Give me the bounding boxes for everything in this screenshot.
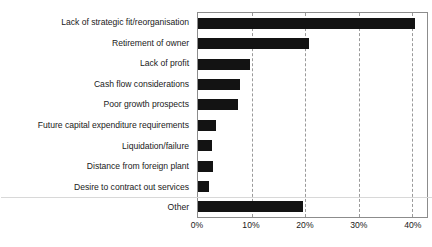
category-label-axis: Lack of strategic fit/reorganisation Ret… [0,12,193,218]
category-label: Lack of strategic fit/reorganisation [0,12,193,33]
bar-row[interactable] [198,54,427,74]
bar[interactable] [198,59,250,70]
category-label: Future capital expenditure requirements [0,115,193,136]
plot-area [197,12,428,218]
bar-row[interactable] [198,135,427,155]
bar[interactable] [198,161,213,172]
bar[interactable] [198,99,238,110]
category-label: Desire to contract out services [0,177,193,198]
bar[interactable] [198,79,240,90]
x-tick-label: 20% [296,221,313,230]
category-label: Cash flow considerations [0,74,193,95]
x-axis: 0%10%20%30%40% [197,221,428,237]
bar[interactable] [198,120,216,131]
bar-row[interactable] [198,74,427,94]
bar[interactable] [198,38,309,49]
bars-layer [198,13,427,217]
bar-row[interactable] [198,33,427,53]
bar-row[interactable] [198,176,427,196]
bar[interactable] [198,18,415,29]
x-tick-label: 0% [191,221,203,230]
bar-row[interactable] [198,115,427,135]
bar[interactable] [198,181,209,192]
bar-row[interactable] [198,156,427,176]
bar-row[interactable] [198,197,427,217]
category-label: Retirement of owner [0,33,193,54]
x-tick-label: 10% [242,221,259,230]
bar[interactable] [198,140,212,151]
category-label: Other [0,197,193,218]
bar-row[interactable] [198,13,427,33]
category-label: Poor growth prospects [0,94,193,115]
x-tick-label: 30% [350,221,367,230]
category-label: Distance from foreign plant [0,156,193,177]
x-tick-label: 40% [404,221,421,230]
bar-row[interactable] [198,95,427,115]
category-label: Lack of profit [0,53,193,74]
other-separator-line [1,197,432,198]
bar[interactable] [198,201,303,212]
category-label: Liquidation/failure [0,136,193,157]
